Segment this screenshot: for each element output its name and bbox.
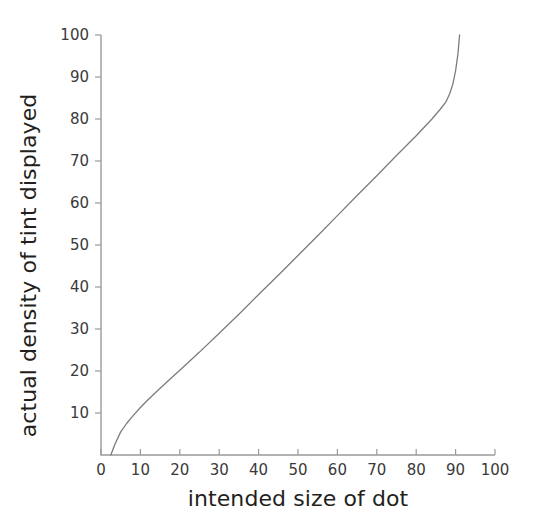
x-tick-label: 0 <box>96 461 106 479</box>
series-line <box>111 35 460 455</box>
x-tick-label: 20 <box>170 461 189 479</box>
x-tick-label: 40 <box>249 461 268 479</box>
x-tick-label: 80 <box>407 461 426 479</box>
y-tick-label: 70 <box>70 152 89 170</box>
tick-labels-group: 0102030405060708090100102030405060708090… <box>60 26 509 479</box>
axis-spines <box>101 35 495 455</box>
plot-area: 0102030405060708090100102030405060708090… <box>0 0 540 531</box>
y-tick-label: 20 <box>70 362 89 380</box>
y-tick-label: 80 <box>70 110 89 128</box>
x-tick-label: 100 <box>481 461 510 479</box>
series-group <box>111 35 460 455</box>
y-tick-label: 60 <box>70 194 89 212</box>
y-tick-label: 50 <box>70 236 89 254</box>
x-tick-label: 10 <box>131 461 150 479</box>
x-tick-label: 50 <box>288 461 307 479</box>
x-tick-label: 30 <box>210 461 229 479</box>
chart-figure: actual density of tint displayed intende… <box>0 0 540 531</box>
x-tick-label: 60 <box>328 461 347 479</box>
tick-marks-group <box>95 35 495 455</box>
x-tick-label: 70 <box>367 461 386 479</box>
y-tick-label: 10 <box>70 404 89 422</box>
y-tick-label: 40 <box>70 278 89 296</box>
y-tick-label: 100 <box>60 26 89 44</box>
y-tick-label: 30 <box>70 320 89 338</box>
x-tick-label: 90 <box>446 461 465 479</box>
y-tick-label: 90 <box>70 68 89 86</box>
